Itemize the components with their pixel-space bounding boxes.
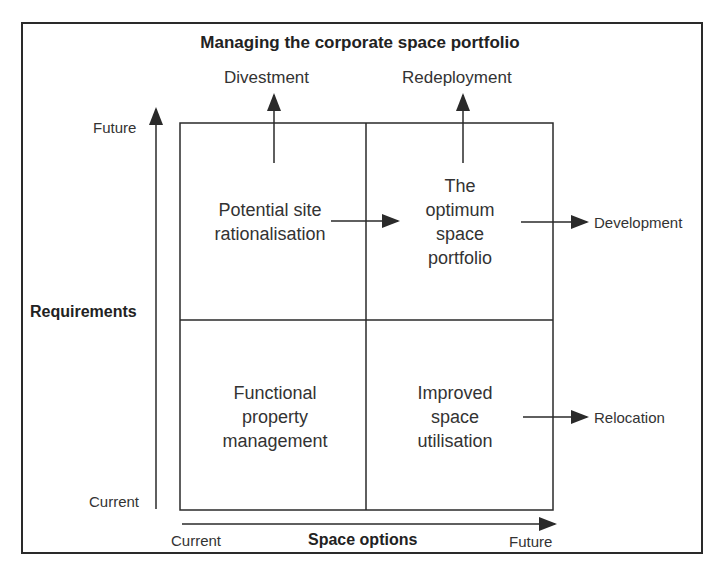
quadrant-functional-property-management: Functional property management (205, 379, 345, 455)
quadrant-optimum-space-portfolio: The optimum space portfolio (405, 172, 515, 272)
quadrant-label: The optimum space portfolio (415, 174, 505, 270)
outcome-redeployment: Redeployment (402, 69, 512, 86)
x-axis-future-label: Future (509, 534, 552, 549)
quadrant-label: Potential site rationalisation (205, 198, 335, 246)
outcome-development: Development (594, 215, 682, 230)
quadrant-label: Improved space utilisation (405, 381, 505, 453)
x-axis-current-label: Current (171, 533, 221, 548)
outcome-divestment: Divestment (224, 69, 309, 86)
y-axis-title: Requirements (30, 304, 137, 320)
outcome-relocation: Relocation (594, 410, 665, 425)
quadrant-improved-space-utilisation: Improved space utilisation (400, 379, 510, 455)
quadrant-label: Functional property management (215, 381, 335, 453)
y-axis-current-label: Current (89, 494, 139, 509)
diagram-lines (0, 0, 720, 574)
y-axis-future-label: Future (93, 120, 136, 135)
x-axis-title: Space options (308, 532, 417, 548)
quadrant-potential-site-rationalisation: Potential site rationalisation (205, 184, 335, 260)
